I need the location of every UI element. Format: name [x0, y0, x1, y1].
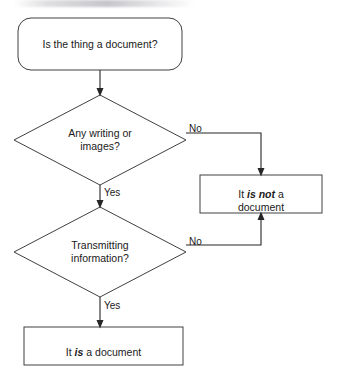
node-result-is-document-shape[interactable] — [24, 327, 183, 365]
node-start-shape[interactable] — [18, 18, 182, 70]
node-decision-transmitting-shape[interactable] — [14, 207, 186, 297]
edge-writing-no-line — [186, 133, 261, 172]
edge-start-to-writing-arrowhead — [97, 88, 104, 97]
flowchart-graphics — [0, 0, 340, 379]
flowchart-canvas: Is the thing a document? Any writing or … — [0, 0, 340, 379]
node-result-not-document-shape[interactable] — [200, 175, 322, 213]
edge-writing-yes-arrowhead — [97, 200, 104, 209]
node-decision-writing-shape[interactable] — [14, 95, 186, 185]
edge-transmitting-no-line — [186, 216, 261, 245]
